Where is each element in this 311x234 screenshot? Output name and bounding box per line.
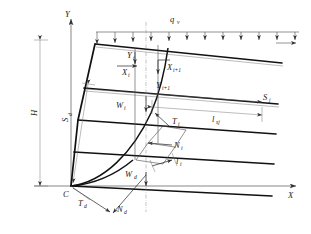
label-Xi-sub: i xyxy=(128,72,130,78)
reinforcement-layer xyxy=(78,120,276,134)
label-Xi: X xyxy=(121,67,128,77)
label-Sd: S xyxy=(60,117,70,122)
base-tangential-arrow xyxy=(155,113,169,126)
label-lsj: l xyxy=(212,114,215,124)
label-Sj: S xyxy=(263,92,268,102)
label-Wi-sub: i xyxy=(124,105,126,111)
y-axis-label: Y xyxy=(65,9,71,19)
x-axis-label: X xyxy=(287,190,294,200)
label-Wi: W xyxy=(116,100,124,110)
layer-guide-lines xyxy=(85,47,283,107)
slope-length-group: S d xyxy=(60,83,95,183)
label-Xi1: X xyxy=(166,62,173,72)
distributed-load-label: q xyxy=(170,14,175,24)
axis-label-group: Y X C xyxy=(63,9,294,200)
label-H: H xyxy=(29,109,39,117)
reinforcement-force-group: S j l sj xyxy=(86,89,271,125)
height-dimension-group: H xyxy=(29,40,48,186)
slope-face xyxy=(71,44,95,186)
distributed-load-group: q v xyxy=(96,14,299,44)
label-Sj-sub: j xyxy=(268,97,271,103)
base-force-group: T i N i l i xyxy=(136,113,186,172)
label-Wd: W xyxy=(125,169,133,179)
distributed-load-sub: v xyxy=(177,19,180,25)
figure-canvas: q v xyxy=(0,0,311,234)
layer-guide xyxy=(85,91,279,107)
label-Yi1-sub: i+1 xyxy=(162,85,170,91)
label-Ti-sub: i xyxy=(178,121,180,127)
layer-guide xyxy=(96,47,283,66)
slip-surface-lower-branch xyxy=(71,160,133,186)
label-li-sub: i xyxy=(180,161,182,167)
interslice-force-group: Y i X i X i+1 Y i+1 xyxy=(117,50,181,91)
base-length-tick-a xyxy=(150,160,155,172)
slope-face-group xyxy=(71,44,95,186)
reinforcement-layer xyxy=(95,44,282,63)
label-Sd-sub: d xyxy=(67,113,73,116)
label-Nd: N xyxy=(116,204,124,214)
slice-weight-group: W i xyxy=(116,96,146,112)
slope-length-dim xyxy=(73,84,88,183)
label-Wd-sub: d xyxy=(134,174,137,180)
label-lsj-sub: sj xyxy=(216,119,220,125)
origin-label: C xyxy=(63,189,69,199)
label-Ni-sub: i xyxy=(181,145,183,151)
label-Nd-sub: d xyxy=(124,209,127,215)
reinforcement-length-dim xyxy=(152,107,262,115)
diagram-svg: q v xyxy=(0,0,311,234)
label-Xi1-sub: i+1 xyxy=(173,67,181,73)
slope-length-top-tick xyxy=(82,83,95,85)
label-Td-sub: d xyxy=(84,203,87,209)
reinforcement-force-arrow xyxy=(86,89,262,102)
reinforcement-layer xyxy=(71,186,272,196)
